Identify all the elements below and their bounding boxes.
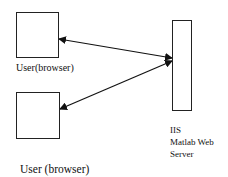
server-label-line2: Matlab Web — [170, 138, 214, 147]
user1-box — [16, 12, 59, 58]
user1-label: User(browser) — [16, 63, 74, 73]
server-box — [172, 20, 192, 111]
user2-box — [16, 92, 60, 139]
server-label-line1: IIS — [170, 126, 181, 135]
arrow-user1-server — [59, 39, 172, 58]
arrow-user2-server — [60, 61, 172, 109]
server-label-line3: Server — [170, 150, 194, 159]
user2-label: User (browser) — [20, 164, 89, 176]
